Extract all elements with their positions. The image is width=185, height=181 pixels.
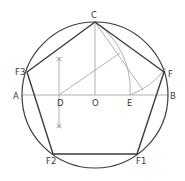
construction-lines	[22, 22, 168, 128]
line-c-to-e-region	[95, 22, 143, 90]
label-a: A	[13, 91, 19, 101]
point-labels: C F3 F A D O E B F2 F1	[13, 10, 176, 166]
label-c: C	[91, 10, 97, 20]
pentagon-construction-diagram: C F3 F A D O E B F2 F1	[0, 0, 185, 181]
label-b: B	[170, 91, 176, 101]
label-f2: F2	[46, 156, 56, 166]
label-f: F	[168, 69, 173, 79]
label-f1: F1	[136, 156, 146, 166]
line-d-to-arc	[59, 53, 120, 95]
label-o: O	[92, 98, 99, 108]
label-f3: F3	[15, 67, 25, 77]
label-d: D	[57, 98, 64, 108]
label-e: E	[127, 98, 132, 108]
